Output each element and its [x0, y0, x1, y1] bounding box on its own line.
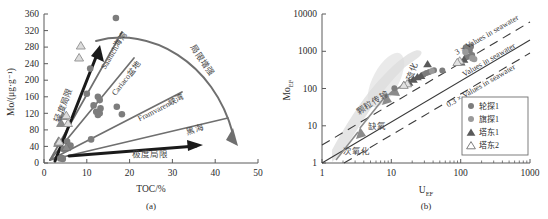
panel-b-x-ticks: 1 10 100 1000 [320, 159, 540, 178]
x-tick-20: 20 [125, 168, 135, 178]
y-tick-320: 320 [25, 26, 40, 36]
x-tick-1000: 1000 [521, 168, 540, 178]
label-saanich-inlet: Saanich海湾 [98, 30, 128, 71]
x-tick-10: 10 [82, 168, 92, 178]
data-point [75, 54, 84, 62]
panel-a: 0 40 80 120 160 200 240 280 320 360 0 [0, 0, 274, 219]
y-axis-title-base: Mo [282, 87, 292, 100]
data-point [87, 65, 94, 72]
y-tick-40: 40 [30, 142, 40, 152]
y-tick-360: 360 [25, 9, 40, 19]
y-tick-240: 240 [25, 59, 40, 69]
y-tick-100: 100 [303, 84, 318, 94]
data-point [119, 111, 126, 118]
data-point [95, 112, 102, 119]
data-point [429, 68, 435, 74]
label-suboxic: 次氧化 [343, 146, 370, 156]
data-point [88, 136, 95, 143]
label-anoxic: 缺氧 [368, 121, 386, 131]
y-tick-280: 280 [25, 42, 40, 52]
x-tick-10: 10 [387, 168, 397, 178]
x-tick-30: 30 [168, 168, 178, 178]
legend-marker-circle-icon [468, 116, 474, 122]
x-axis-title-sub: EF [426, 190, 434, 197]
data-point [113, 15, 120, 22]
panel-a-svg: 0 40 80 120 160 200 240 280 320 360 0 [0, 0, 274, 219]
legend-label-luntan1: 轮探1 [479, 101, 499, 111]
arc-arrowhead-icon [226, 128, 238, 146]
panel-a-x-ticks: 0 10 20 30 40 50 [42, 159, 263, 178]
arrow-extreme-head-icon [187, 140, 203, 151]
label-restriction-enhanced: 局限增强 [188, 43, 216, 78]
panel-a-caption: (a) [146, 201, 156, 211]
label-framvaren-fjord: Framvaren峡湾 [136, 91, 186, 123]
y-tick-80: 80 [30, 125, 40, 135]
data-point [423, 60, 432, 67]
y-tick-200: 200 [25, 75, 40, 85]
panel-a-axes [44, 14, 258, 163]
data-point [90, 102, 97, 109]
x-tick-100: 100 [454, 168, 469, 178]
label-black-sea: 黑海 [185, 122, 205, 137]
y-tick-10000: 10000 [293, 9, 317, 19]
x-tick-0: 0 [42, 168, 47, 178]
data-point [57, 155, 64, 162]
y-axis-title-sub: EF [287, 79, 294, 87]
y-tick-160: 160 [25, 92, 40, 102]
data-point [391, 85, 397, 91]
legend-label-qitan1: 旗探1 [479, 114, 499, 124]
panel-b-y-axis-title: MoEF [282, 79, 294, 100]
panel-b-svg: 1 10 100 1000 10000 [274, 0, 548, 219]
x-tick-50: 50 [253, 168, 263, 178]
panel-b-y-ticks: 1 10 100 1000 10000 [293, 9, 326, 168]
figure-container: 0 40 80 120 160 200 240 280 320 360 0 [0, 0, 548, 219]
arrow-mild-head-icon [91, 45, 104, 62]
label-cariaco-basin: Cariaco盆地 [109, 59, 142, 97]
label-extreme-restriction: 极度局限 [132, 149, 168, 159]
y-tick-1000: 1000 [298, 46, 317, 56]
data-point [114, 103, 121, 110]
y-tick-120: 120 [25, 109, 40, 119]
panel-b: 1 10 100 1000 10000 [274, 0, 548, 219]
legend-label-tadong1: 塔东1 [479, 127, 499, 137]
data-point [439, 68, 445, 74]
x-tick-1: 1 [320, 168, 325, 178]
data-point [96, 97, 103, 104]
panel-a-y-axis-title: Mo/(μg·g⁻¹) [6, 68, 17, 116]
data-point [84, 91, 91, 98]
panel-a-x-axis-title: TOC/% [136, 184, 165, 194]
legend-item-tadong2[interactable]: 塔东2 [467, 140, 499, 150]
legend-label-tadong2: 塔东2 [479, 140, 499, 150]
y-tick-10: 10 [308, 121, 318, 131]
y-tick-1: 1 [312, 158, 317, 168]
panel-b-x-axis-title: UEF [419, 185, 434, 197]
panel-a-y-ticks: 0 40 80 120 160 200 240 280 320 360 [25, 9, 48, 168]
data-point [64, 138, 71, 145]
legend-marker-circle-icon [468, 103, 474, 109]
data-point [76, 42, 85, 50]
x-tick-40: 40 [210, 168, 220, 178]
panel-b-caption: (b) [421, 201, 432, 211]
y-tick-0: 0 [34, 158, 39, 168]
panel-b-legend: 轮探1 旗探1 塔东1 塔东2 [462, 97, 528, 155]
